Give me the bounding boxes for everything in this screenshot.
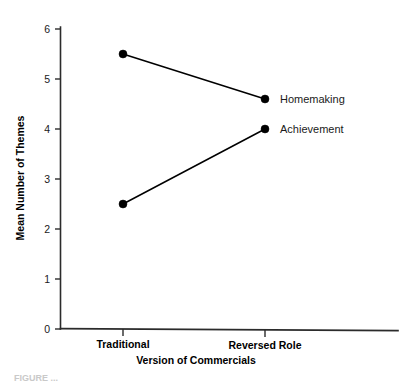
x-axis	[61, 329, 399, 331]
series-achievement: Achievement	[119, 123, 344, 208]
x-axis-line	[61, 329, 399, 331]
data-point-achievement-reversed-role	[261, 125, 269, 133]
x-tick-label-reversed-role: Reversed Role	[229, 339, 302, 351]
y-tick-group	[55, 29, 61, 329]
y-tick-label-6: 6	[44, 23, 50, 35]
series-homemaking: Homemaking	[119, 50, 345, 105]
figure-caption: FIGURE ...	[14, 373, 58, 383]
figure-container: 6 5 4 3 2 1 0 Traditional Reversed Role …	[0, 0, 401, 385]
y-tick-label-5: 5	[44, 73, 50, 85]
x-tick-label-traditional: Traditional	[96, 338, 149, 350]
line-chart: 6 5 4 3 2 1 0 Traditional Reversed Role …	[0, 0, 401, 385]
y-axis-title: Mean Number of Themes	[14, 115, 26, 240]
series-label-achievement: Achievement	[280, 123, 344, 135]
x-axis-title: Version of Commercials	[136, 354, 256, 366]
y-tick-label-4: 4	[44, 123, 50, 135]
y-tick-label-1: 1	[44, 273, 50, 285]
y-tick-label-2: 2	[44, 223, 50, 235]
series-label-homemaking: Homemaking	[280, 93, 345, 105]
y-tick-labels: 6 5 4 3 2 1 0	[44, 23, 50, 335]
x-tick-labels: Traditional Reversed Role	[96, 338, 301, 351]
y-tick-label-3: 3	[44, 173, 50, 185]
data-point-achievement-traditional	[119, 200, 127, 208]
series-line-achievement	[123, 129, 265, 204]
figure-caption-strip: FIGURE ...	[0, 371, 401, 385]
y-tick-label-0: 0	[44, 323, 50, 335]
data-point-homemaking-reversed-role	[261, 95, 269, 103]
data-point-homemaking-traditional	[119, 50, 127, 58]
series-line-homemaking	[123, 54, 265, 99]
